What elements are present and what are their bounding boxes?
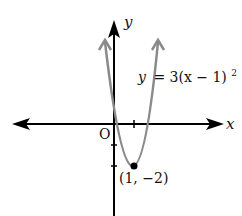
- x-axis-label: x: [226, 115, 235, 133]
- vertex-point: [131, 163, 138, 170]
- parabola-graph: y x O (1, −2) y = 3(x − 1) 2 − 2: [0, 0, 242, 216]
- vertex-label: (1, −2): [119, 170, 168, 186]
- y-axis-label: y: [123, 13, 133, 31]
- parabola-curve: [105, 42, 158, 166]
- origin-label: O: [99, 126, 110, 142]
- equation-label: y = 3(x − 1) 2 − 2: [137, 63, 242, 85]
